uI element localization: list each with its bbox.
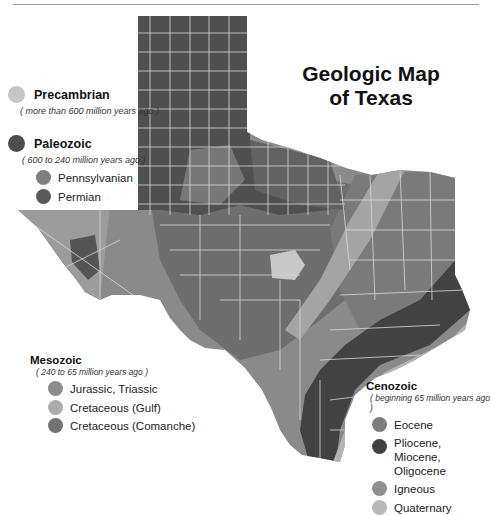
precambrian-swatch-icon <box>8 86 25 103</box>
igneous-swatch-icon <box>372 481 387 496</box>
eocene-swatch-icon <box>372 417 387 432</box>
legend-precambrian: Precambrian <box>8 86 159 103</box>
cretaceous-gulf-swatch-icon <box>48 400 63 415</box>
legend-paleozoic: Paleozoic <box>8 135 159 152</box>
map-title: Geologic Map of Texas <box>296 62 446 110</box>
igneous-label: Igneous <box>394 483 435 495</box>
cretaceous-gulf-label: Cretaceous (Gulf) <box>70 402 161 414</box>
eocene-label: Eocene <box>394 419 433 431</box>
legend-permian: Permian <box>36 189 159 204</box>
mesozoic-note: ( 240 to 65 million years ago ) <box>36 367 195 377</box>
legend-cenozoic: Cenozoic ( beginning 65 million years ag… <box>366 380 491 515</box>
cretaceous-comanche-label: Cretaceous (Comanche) <box>70 420 195 432</box>
oligocene-label-line1: Pliocene, Miocene, <box>394 436 491 464</box>
legend-mesozoic: Mesozoic ( 240 to 65 million years ago )… <box>30 354 195 433</box>
legend-quaternary: Quaternary <box>372 500 491 515</box>
quaternary-label: Quaternary <box>394 502 452 514</box>
legend-pennsylvanian: Pennsylvanian <box>36 170 159 185</box>
permian-label: Permian <box>58 191 101 203</box>
quaternary-swatch-icon <box>372 500 387 515</box>
legend-cretaceous-gulf: Cretaceous (Gulf) <box>48 400 195 415</box>
legend-oligocene: Pliocene, Miocene, Oligocene <box>372 436 491 478</box>
permian-swatch-icon <box>36 189 51 204</box>
jurassic-label: Jurassic, Triassic <box>70 383 158 395</box>
cretaceous-comanche-swatch-icon <box>48 418 63 433</box>
precambrian-note: ( more than 600 million years ago ) <box>20 106 159 116</box>
mesozoic-label: Mesozoic <box>30 354 195 366</box>
paleozoic-swatch-icon <box>8 135 25 152</box>
paleozoic-label: Paleozoic <box>34 137 92 151</box>
pennsylvanian-label: Pennsylvanian <box>58 172 133 184</box>
title-line-1: Geologic Map <box>296 62 446 86</box>
cenozoic-label: Cenozoic <box>366 380 491 392</box>
oligocene-label-line2: Oligocene <box>394 464 491 478</box>
legend-cretaceous-comanche: Cretaceous (Comanche) <box>48 418 195 433</box>
legend-eocene: Eocene <box>372 417 491 432</box>
legend-igneous: Igneous <box>372 481 491 496</box>
legend-upper: Precambrian ( more than 600 million year… <box>8 86 159 204</box>
oligocene-swatch-icon <box>372 439 387 454</box>
pennsylvanian-swatch-icon <box>36 170 51 185</box>
precambrian-label: Precambrian <box>34 88 110 102</box>
paleozoic-note: ( 600 to 240 million years ago ) <box>22 155 159 165</box>
legend-jurassic-triassic: Jurassic, Triassic <box>48 381 195 396</box>
cenozoic-note: ( beginning 65 million years ago ) <box>370 393 491 413</box>
jurassic-swatch-icon <box>48 381 63 396</box>
title-line-2: of Texas <box>296 86 446 110</box>
